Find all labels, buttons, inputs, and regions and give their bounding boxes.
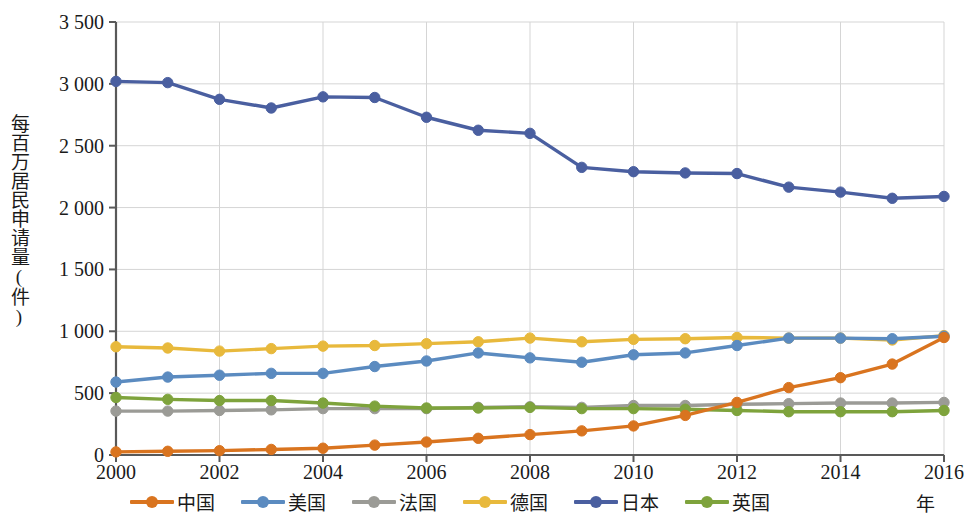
data-point (577, 357, 587, 367)
x-axis-tick-label: 2002 (200, 461, 240, 484)
legend-swatch-icon (463, 495, 507, 509)
data-point (887, 407, 897, 417)
data-point (421, 338, 431, 348)
legend-item-中国[interactable]: 中国 (130, 488, 215, 513)
data-point (577, 162, 587, 172)
data-point (163, 343, 173, 353)
legend-swatch-icon (574, 495, 618, 509)
data-point (214, 94, 224, 104)
data-point (266, 343, 276, 353)
data-point (214, 445, 224, 455)
data-point (628, 403, 638, 413)
data-point (318, 443, 328, 453)
data-point (887, 334, 897, 344)
y-axis-tick-label: 3 500 (0, 11, 104, 34)
data-point (577, 403, 587, 413)
data-point (784, 333, 794, 343)
data-point (939, 191, 949, 201)
data-point (266, 103, 276, 113)
data-point (370, 401, 380, 411)
data-point (577, 337, 587, 347)
data-point (318, 368, 328, 378)
data-point (266, 395, 276, 405)
data-point (370, 440, 380, 450)
legend-item-法国[interactable]: 法国 (352, 488, 437, 513)
data-point (214, 395, 224, 405)
legend-swatch-icon (130, 495, 174, 509)
data-point (887, 359, 897, 369)
legend-label: 英国 (732, 488, 770, 513)
data-point (887, 193, 897, 203)
data-point (473, 433, 483, 443)
y-axis-tick-label: 500 (0, 382, 104, 405)
legend-label: 美国 (288, 488, 326, 513)
x-axis-title: 年 (916, 489, 935, 513)
data-point (111, 447, 121, 457)
legend-item-英国[interactable]: 英国 (685, 488, 770, 513)
data-point (628, 421, 638, 431)
legend-swatch-icon (685, 495, 729, 509)
data-point (835, 333, 845, 343)
data-point (266, 444, 276, 454)
data-point (163, 394, 173, 404)
data-point (318, 92, 328, 102)
data-point (421, 437, 431, 447)
legend-label: 日本 (621, 488, 659, 513)
legend-item-美国[interactable]: 美国 (241, 488, 326, 513)
gridlines (116, 22, 944, 455)
data-point (370, 92, 380, 102)
data-point (214, 370, 224, 380)
data-point (680, 168, 690, 178)
x-axis-tick-label: 2014 (821, 461, 861, 484)
data-point (525, 128, 535, 138)
legend-label: 法国 (399, 488, 437, 513)
data-point (214, 346, 224, 356)
legend-label: 中国 (177, 488, 215, 513)
chart-legend: 中国美国法国德国日本英国 (0, 488, 900, 513)
data-point (421, 403, 431, 413)
legend-item-德国[interactable]: 德国 (463, 488, 548, 513)
data-point (628, 334, 638, 344)
data-point (525, 429, 535, 439)
data-point (732, 168, 742, 178)
axes (109, 22, 944, 462)
legend-swatch-icon (241, 495, 285, 509)
y-axis-title: 每百万居民申请量(件) (2, 0, 36, 440)
data-point (628, 350, 638, 360)
data-point (525, 353, 535, 363)
data-point (939, 332, 949, 342)
legend-swatch-icon (352, 495, 396, 509)
data-point (939, 405, 949, 415)
data-point (370, 361, 380, 371)
data-point (525, 402, 535, 412)
legend-item-日本[interactable]: 日本 (574, 488, 659, 513)
data-point (473, 337, 483, 347)
x-axis-tick-label: 2006 (407, 461, 447, 484)
data-point (111, 76, 121, 86)
data-point (318, 341, 328, 351)
data-point (473, 125, 483, 135)
x-axis-tick-label: 2012 (717, 461, 757, 484)
data-point (680, 410, 690, 420)
y-axis-tick-label: 2 500 (0, 134, 104, 157)
y-axis-tick-label: 2 000 (0, 196, 104, 219)
x-axis-tick-label: 2004 (303, 461, 343, 484)
data-point (163, 406, 173, 416)
legend-label: 德国 (510, 488, 548, 513)
y-axis-tick-label: 1 000 (0, 320, 104, 343)
data-point (421, 356, 431, 366)
data-point (163, 446, 173, 456)
x-axis-tick-label: 2000 (96, 461, 136, 484)
data-point (680, 348, 690, 358)
data-point (835, 407, 845, 417)
data-point (473, 403, 483, 413)
y-axis-tick-label: 1 500 (0, 258, 104, 281)
data-point (784, 407, 794, 417)
x-axis-tick-label: 2008 (510, 461, 550, 484)
data-point (835, 372, 845, 382)
data-point (628, 166, 638, 176)
data-point (525, 333, 535, 343)
data-point (473, 348, 483, 358)
